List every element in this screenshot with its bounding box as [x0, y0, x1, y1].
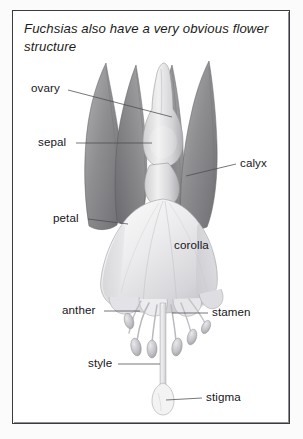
- label-corolla: corolla: [174, 238, 209, 251]
- label-anther: anther: [62, 303, 95, 316]
- label-sepal: sepal: [38, 135, 66, 148]
- label-style: style: [88, 356, 112, 369]
- figure-page: Fuchsias also have a very obvious flower…: [0, 0, 303, 439]
- ovary-group: [143, 63, 183, 208]
- label-petal: petal: [53, 211, 79, 224]
- label-ovary: ovary: [31, 81, 60, 94]
- label-stamen: stamen: [212, 305, 251, 318]
- label-stigma: stigma: [206, 390, 241, 403]
- label-calyx: calyx: [240, 156, 267, 169]
